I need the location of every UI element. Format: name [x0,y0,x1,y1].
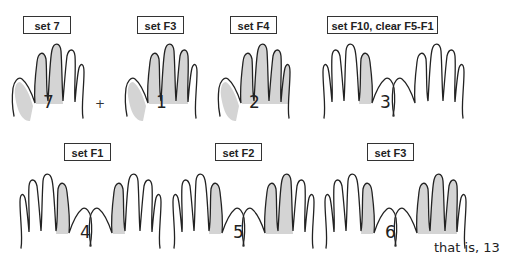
count-7: 7 [43,92,54,112]
hand-pair-3 [323,44,464,118]
count-2: 2 [249,92,260,112]
count-4: 4 [80,222,91,242]
hands-illustration [0,0,516,267]
count-5: 5 [233,222,244,242]
count-1: 1 [156,92,167,112]
plus-sign: + [95,97,105,111]
result-text: that is, 13 [434,240,500,255]
count-3: 3 [380,92,391,112]
count-6: 6 [385,222,396,242]
